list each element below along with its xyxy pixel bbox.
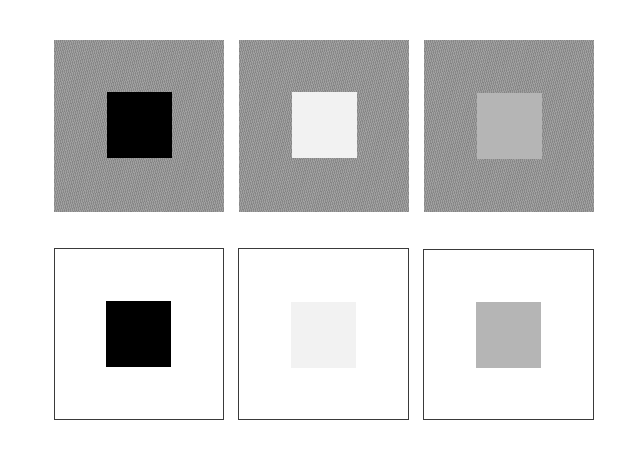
target-square-mid-gray — [477, 93, 542, 159]
target-square-black — [106, 301, 171, 367]
bottom-row-panel-3 — [423, 249, 594, 420]
target-square-mid-gray — [476, 302, 541, 368]
target-square-light — [292, 92, 357, 158]
bottom-row-panel-1 — [54, 248, 224, 420]
top-row-panel-2 — [239, 40, 409, 212]
bottom-row-panel-2 — [238, 248, 409, 420]
target-square-light — [291, 302, 356, 368]
target-square-black — [107, 92, 172, 158]
top-row-panel-1 — [54, 40, 224, 212]
top-row-panel-3 — [424, 40, 594, 212]
